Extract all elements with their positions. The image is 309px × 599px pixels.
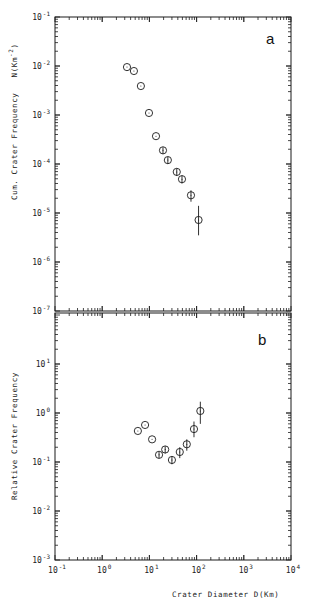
panel-b-data-points [134,402,204,465]
bottom-y-axis-title: Relative Crater Frequency [10,372,19,500]
bottom-y-tick-label: 101 [36,357,51,369]
top-ylabel-unit-exp: -2 [7,49,14,57]
top-ylabel-unit-close: ) [10,43,19,48]
panel-label-b: b [258,331,266,348]
top-ylabel-main: Cum. Crater Frequency [10,93,19,200]
x-tick-label: 101 [144,563,159,575]
svg-text:Cum. Crater Frequency N(: Cum. Crater Frequency N(Km-2) [7,43,19,200]
crater-frequency-figure: 10-110-210-310-410-510-610-710110010-110… [0,0,309,599]
panel-a-frame [55,17,291,311]
panel-b-frame [55,313,291,560]
axis-ticks [55,17,291,560]
top-ylabel-unit: N(Km [10,57,19,77]
x-tick-label: 104 [286,563,301,575]
x-tick-label: 100 [97,563,112,575]
panel-a-data-points [123,63,202,235]
x-axis-title: Crater Diameter D(Km) [172,590,279,599]
bottom-ylabel: Relative Crater Frequency [10,372,19,500]
top-y-tick-label: 10-6 [32,255,50,267]
top-y-tick-label: 10-7 [32,304,50,316]
bottom-y-tick-label: 10-2 [32,504,50,516]
top-y-axis-title: Cum. Crater Frequency N(Km-2) [7,43,19,200]
bottom-y-tick-label: 10-3 [32,553,50,565]
panel-label-a: a [266,30,275,47]
x-tick-label: 10-1 [48,563,66,575]
top-y-tick-label: 10-2 [32,59,50,71]
top-y-tick-label: 10-4 [32,157,50,169]
top-y-tick-label: 10-5 [32,206,50,218]
bottom-y-tick-label: 10-1 [32,455,50,467]
top-y-tick-label: 10-1 [32,10,50,22]
top-y-tick-label: 10-3 [32,108,50,120]
tick-labels: 10-110-210-310-410-510-610-710110010-110… [32,10,300,575]
bottom-y-tick-label: 100 [36,406,51,418]
x-tick-label: 103 [239,563,254,575]
x-tick-label: 102 [191,563,206,575]
